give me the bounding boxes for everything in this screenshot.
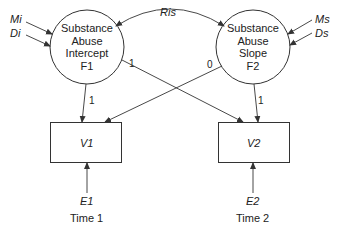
diagram-canvas bbox=[0, 0, 339, 232]
factor-f2-line-2: Abuse bbox=[218, 35, 288, 48]
error-e2-label: E2 bbox=[246, 195, 259, 207]
loading-f1-v1-value: 1 bbox=[89, 95, 95, 106]
mi-arrow bbox=[26, 22, 52, 34]
loading-f1-v1 bbox=[82, 84, 86, 122]
ds-label: Ds bbox=[315, 27, 328, 39]
observed-v2-label: V2 bbox=[247, 137, 260, 149]
factor-f1-line-1: Substance bbox=[52, 22, 122, 35]
factor-f1-line-4: F1 bbox=[52, 60, 122, 73]
time-2-label: Time 2 bbox=[236, 212, 269, 224]
ms-label: Ms bbox=[315, 13, 330, 25]
factor-f2-label: Substance Abuse Slope F2 bbox=[218, 22, 288, 72]
covariance-label: Ris bbox=[160, 6, 176, 18]
observed-v1-label: V1 bbox=[80, 137, 93, 149]
factor-f2-line-4: F2 bbox=[218, 60, 288, 73]
time-1-label: Time 1 bbox=[70, 212, 103, 224]
di-arrow bbox=[26, 35, 50, 46]
error-e1-label: E1 bbox=[80, 195, 93, 207]
factor-f2-line-3: Slope bbox=[218, 47, 288, 60]
di-label: Di bbox=[10, 27, 20, 39]
ds-arrow bbox=[290, 33, 312, 45]
factor-f1-line-2: Abuse bbox=[52, 35, 122, 48]
mi-label: Mi bbox=[10, 13, 22, 25]
loading-f2-v1-value: 0 bbox=[207, 59, 213, 70]
ms-arrow bbox=[288, 20, 312, 34]
factor-f2-line-1: Substance bbox=[218, 22, 288, 35]
loading-f2-v2-value: 1 bbox=[258, 95, 264, 106]
loading-f1-v2-value: 1 bbox=[129, 58, 135, 69]
factor-f1-label: Substance Abuse Intercept F1 bbox=[52, 22, 122, 72]
loading-f2-v1 bbox=[105, 66, 222, 122]
factor-f1-line-3: Intercept bbox=[52, 47, 122, 60]
